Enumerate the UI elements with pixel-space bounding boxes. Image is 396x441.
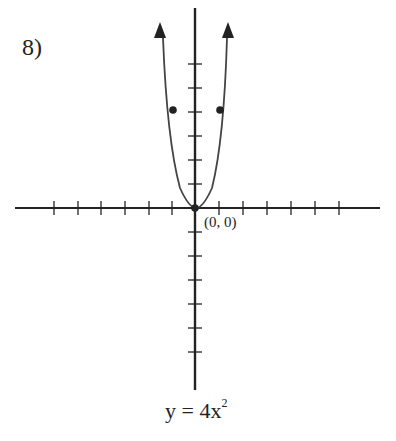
equation-lhs: y = 4x [165,398,221,423]
arrow-up-right-icon [222,22,234,38]
point-origin [191,204,199,212]
equation-exponent: 2 [221,396,227,410]
point-neg1-4 [169,106,177,114]
arrow-up-left-icon [154,22,166,38]
graph-canvas [0,0,396,441]
origin-label: (0, 0) [204,214,237,231]
point-1-4 [216,106,224,114]
equation-label: y = 4x2 [165,396,227,424]
